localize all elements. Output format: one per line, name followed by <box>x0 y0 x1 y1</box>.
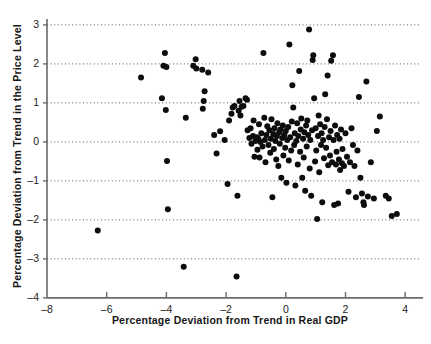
y-tick-label: 2 <box>19 57 39 69</box>
data-point <box>303 123 309 129</box>
data-point <box>286 158 292 164</box>
data-point <box>280 153 286 159</box>
y-tick-label: 0 <box>19 135 39 147</box>
data-point <box>359 190 365 196</box>
data-point <box>234 273 240 279</box>
x-tick-label: –6 <box>95 303 119 315</box>
data-point <box>288 147 294 153</box>
data-point <box>333 162 339 168</box>
y-tick-label: –3 <box>19 252 39 264</box>
data-point <box>265 142 271 148</box>
data-point <box>337 136 343 142</box>
data-point <box>386 195 392 201</box>
data-point <box>201 98 207 104</box>
data-point <box>263 159 269 165</box>
data-point <box>200 106 206 112</box>
data-point <box>165 206 171 212</box>
data-point <box>296 68 302 74</box>
data-point <box>273 156 279 162</box>
data-point <box>225 181 231 187</box>
data-point <box>254 147 260 153</box>
data-point <box>334 149 340 155</box>
data-point <box>321 155 327 161</box>
data-point <box>271 146 277 152</box>
y-tick-label: –1 <box>19 174 39 186</box>
data-point <box>374 128 380 134</box>
data-point <box>328 58 334 64</box>
data-point <box>274 120 280 126</box>
data-point <box>290 105 296 111</box>
data-point <box>295 162 301 168</box>
data-point <box>289 119 295 125</box>
data-point <box>361 202 367 208</box>
data-point <box>348 125 354 131</box>
data-point <box>331 137 337 143</box>
data-point <box>322 124 328 130</box>
data-point <box>316 112 322 118</box>
data-point <box>312 158 318 164</box>
data-point <box>138 75 144 81</box>
data-point <box>343 130 349 136</box>
data-point <box>313 147 319 153</box>
data-point <box>344 154 350 160</box>
data-point <box>310 52 316 58</box>
data-point <box>341 163 347 169</box>
data-point <box>307 137 313 143</box>
data-point <box>327 153 333 159</box>
data-point <box>244 97 250 103</box>
y-tick-label: –4 <box>19 291 39 303</box>
data-point <box>286 41 292 47</box>
data-point <box>193 66 199 72</box>
data-point <box>304 117 310 123</box>
data-point <box>350 142 356 148</box>
data-point <box>260 144 266 150</box>
x-tick-label: –8 <box>35 303 59 315</box>
data-point <box>228 111 234 117</box>
data-point <box>394 211 400 217</box>
data-point <box>205 69 211 75</box>
data-point <box>280 123 286 129</box>
data-point <box>222 137 228 143</box>
data-point <box>262 137 268 143</box>
data-point <box>363 78 369 84</box>
scatter-plot-figure: Percentage Deviation from Trend in Real … <box>0 0 431 344</box>
data-point <box>269 194 275 200</box>
data-point <box>275 163 281 169</box>
data-point <box>217 128 223 134</box>
data-point <box>289 82 295 88</box>
data-point <box>300 136 306 142</box>
data-point <box>306 27 312 33</box>
data-point <box>234 193 240 199</box>
data-point <box>368 159 374 165</box>
data-point <box>357 175 363 181</box>
data-point <box>226 117 232 123</box>
x-tick-label: 2 <box>334 303 358 315</box>
data-point <box>292 183 298 189</box>
data-point <box>371 195 377 201</box>
data-point <box>251 154 257 160</box>
data-point <box>237 112 243 118</box>
data-point <box>268 116 274 122</box>
data-point <box>199 67 205 73</box>
data-point <box>299 175 305 181</box>
data-point <box>258 130 264 136</box>
data-point <box>183 115 189 121</box>
data-point <box>330 52 336 58</box>
data-point <box>237 98 243 104</box>
data-point <box>301 155 307 161</box>
data-point <box>261 115 267 121</box>
data-point <box>302 188 308 194</box>
data-point <box>283 180 289 186</box>
y-tick-label: 1 <box>19 96 39 108</box>
data-point <box>308 193 314 199</box>
y-tick-label: 3 <box>19 18 39 30</box>
data-point <box>351 163 357 169</box>
data-point <box>319 199 325 205</box>
x-tick-label: 4 <box>393 303 417 315</box>
data-point <box>316 169 322 175</box>
data-point <box>297 149 303 155</box>
data-point <box>202 88 208 94</box>
data-point <box>311 95 317 101</box>
data-point <box>159 95 165 101</box>
scatter-plot-canvas <box>0 0 431 344</box>
